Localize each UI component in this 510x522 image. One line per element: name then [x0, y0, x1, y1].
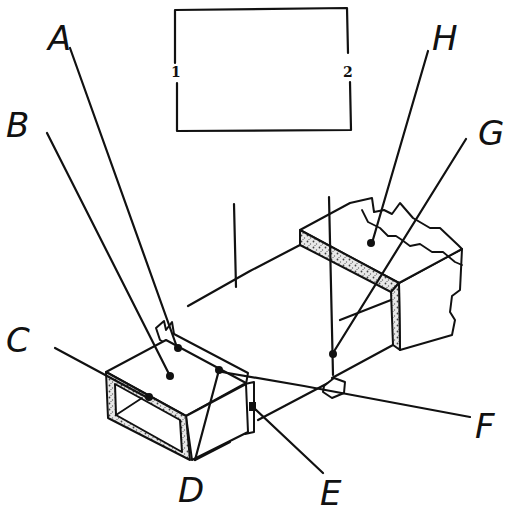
duct-section-c — [106, 321, 254, 460]
label-f: F — [475, 406, 495, 446]
label-e: E — [320, 473, 342, 513]
inset-box: 1 2 — [171, 8, 353, 131]
label-a: A — [46, 18, 71, 58]
terminal-1-label: 1 — [171, 64, 181, 80]
duct-assembly-diagram: 1 2 — [0, 0, 510, 522]
terminal-2-label: 2 — [343, 64, 353, 80]
label-g: G — [478, 113, 504, 153]
label-c: C — [6, 320, 30, 360]
label-d: D — [178, 470, 204, 510]
label-b: B — [6, 105, 29, 145]
label-h: H — [432, 18, 458, 58]
